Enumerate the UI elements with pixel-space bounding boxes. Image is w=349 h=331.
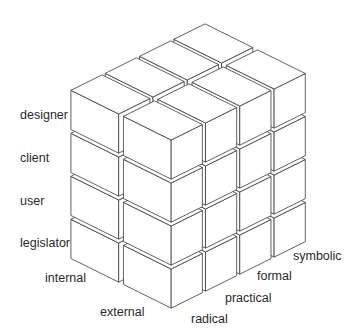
label-internal: internal	[45, 272, 86, 285]
label-external: external	[100, 306, 144, 319]
label-designer: designer	[20, 109, 68, 122]
label-radical: radical	[191, 313, 228, 326]
label-practical: practical	[225, 292, 272, 305]
label-legislator: legislator	[20, 237, 70, 250]
label-formal: formal	[257, 270, 292, 283]
label-user: user	[20, 195, 44, 208]
label-client: client	[20, 152, 49, 165]
label-symbolic: symbolic	[293, 250, 342, 263]
